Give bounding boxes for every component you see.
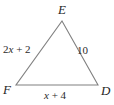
- side-fd-constant: 4: [61, 89, 67, 101]
- side-label-ef: 2x + 2: [3, 44, 31, 55]
- side-ef-constant: 2: [25, 43, 31, 55]
- side-label-fd: x + 4: [44, 90, 66, 101]
- side-ef-operator: +: [16, 43, 22, 55]
- side-fd-variable: x: [44, 89, 49, 101]
- vertex-label-f: F: [3, 83, 11, 96]
- side-label-ed: 10: [77, 45, 88, 56]
- side-ef-variable: x: [9, 43, 14, 55]
- vertex-label-e: E: [58, 3, 66, 16]
- vertex-label-d: D: [101, 84, 110, 97]
- triangle-figure: E F D 2x + 2 10 x + 4: [0, 0, 114, 105]
- side-fd-operator: +: [52, 89, 58, 101]
